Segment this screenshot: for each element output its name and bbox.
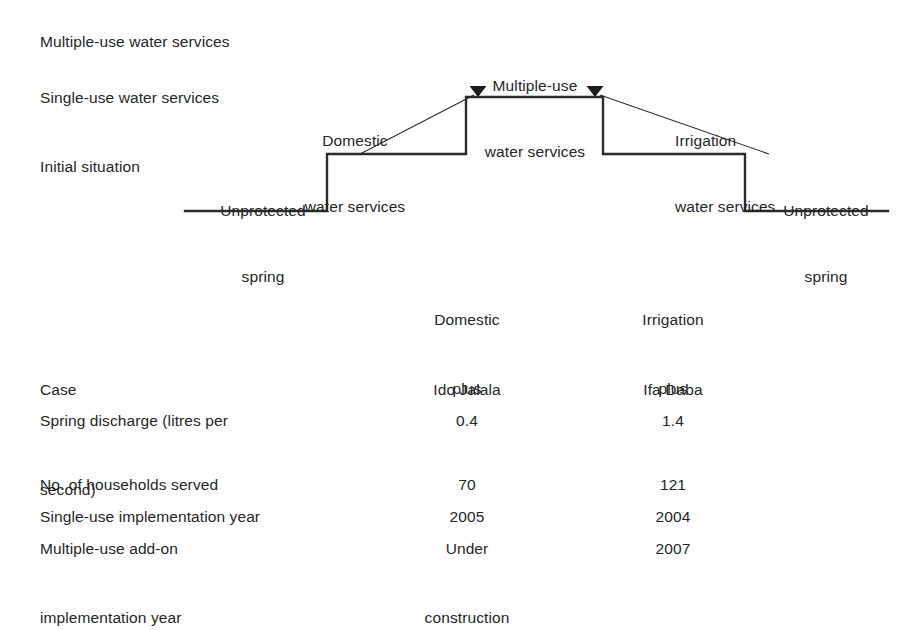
callout-multiple-use-water-services: Multiple-use water services (468, 31, 602, 207)
callout-domestic-water-services: Domestic water services (288, 86, 422, 262)
callout-line-2: water services (288, 196, 422, 218)
row-label-line-1: Multiple-use add-on (40, 537, 390, 560)
table-cell-multiple-use-addon-domestic: Under construction (381, 491, 553, 630)
callout-line-1: Multiple-use (468, 75, 602, 97)
column-header-line-1: Domestic (381, 308, 553, 331)
tier-label-single-use: Single-use water services (40, 87, 219, 109)
callout-line-2: water services (468, 141, 602, 163)
tier-label-multiple-use: Multiple-use water services (40, 31, 230, 53)
callout-line-1: Irrigation (675, 130, 815, 152)
table-cell-multiple-use-addon-irrigation: 2007 (587, 491, 759, 606)
cell-line-1: Under (381, 537, 553, 560)
cell-line-2: construction (381, 606, 553, 629)
tier-label-initial-situation: Initial situation (40, 156, 140, 178)
comparison-table: Domestic plus Irrigation plus Case Ido J… (0, 240, 922, 572)
cell-line-1: 2007 (587, 537, 759, 560)
callout-line-1: Unprotected (756, 200, 896, 222)
table-row-label-multiple-use-addon-year: Multiple-use add-on implementation year (40, 491, 390, 630)
row-label-line-2: implementation year (40, 606, 390, 629)
callout-line-1: Domestic (288, 130, 422, 152)
column-header-line-1: Irrigation (587, 308, 759, 331)
